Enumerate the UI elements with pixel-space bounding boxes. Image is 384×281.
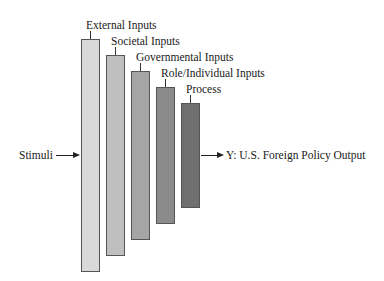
stage-bar-0 — [81, 39, 100, 272]
stage-bar-1 — [106, 55, 125, 256]
stage-bar-2 — [131, 71, 150, 240]
stage-tick-0 — [90, 31, 91, 39]
stage-label-1: Societal Inputs — [111, 34, 180, 48]
output-arrow-icon — [217, 152, 224, 158]
stage-tick-3 — [165, 79, 166, 87]
stimuli-label: Stimuli — [19, 148, 53, 162]
stage-tick-2 — [140, 63, 141, 71]
stimuli-arrow-line — [56, 155, 74, 156]
stage-bar-3 — [156, 87, 175, 224]
stage-tick-4 — [190, 95, 191, 103]
output-label: Y: U.S. Foreign Policy Output — [226, 148, 366, 162]
stage-label-2: Governmental Inputs — [136, 50, 233, 64]
output-arrow-line — [201, 155, 218, 156]
stage-bar-4 — [181, 103, 200, 208]
stage-label-3: Role/Individual Inputs — [161, 66, 265, 80]
stage-label-0: External Inputs — [86, 18, 157, 32]
stage-tick-1 — [115, 47, 116, 55]
stimuli-arrow-icon — [73, 152, 80, 158]
stage-label-4: Process — [186, 82, 221, 96]
